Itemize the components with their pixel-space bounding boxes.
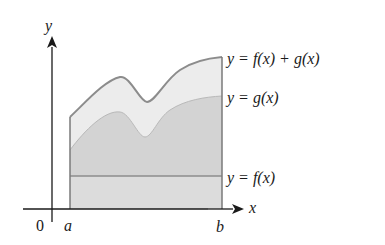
y-axis-arrow-icon [47,36,57,48]
origin-label: 0 [36,218,44,234]
diagram-canvas [0,0,385,245]
sum-curve-label: y = f(x) + g(x) [227,51,320,67]
f-region [70,176,222,209]
g-curve-label: y = g(x) [227,90,279,106]
x-axis-label: x [249,200,256,216]
y-axis-label: y [45,18,52,34]
x-axis-arrow-icon [232,204,244,214]
tick-label-b: b [216,219,224,235]
tick-label-a: a [64,218,72,234]
f-curve-label: y = f(x) [227,170,275,186]
